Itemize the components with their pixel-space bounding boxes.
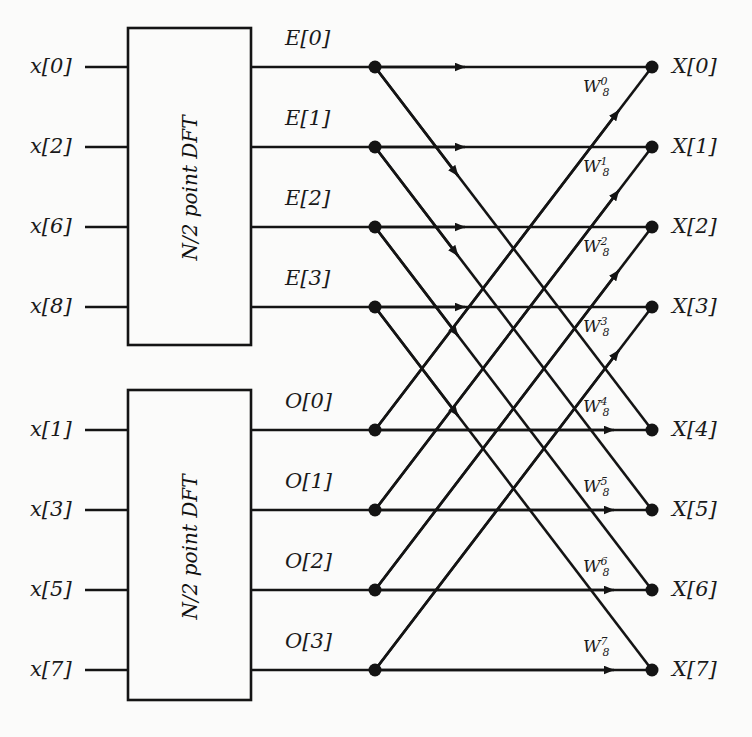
twiddle-label-2: W28: [583, 236, 609, 258]
twiddle-base-7: W: [583, 636, 600, 656]
even-dft-block-label: N/2 point DFT: [178, 113, 202, 263]
twiddle-label-7: W78: [583, 636, 609, 658]
twiddle-base-5: W: [583, 476, 600, 496]
output-label-X4: X[4]: [672, 419, 717, 440]
even-output-label-0: E[0]: [285, 28, 330, 49]
odd-output-label-1: O[1]: [285, 471, 332, 492]
even-output-label-1: E[1]: [285, 108, 330, 129]
output-label-X2: X[2]: [672, 216, 717, 237]
twiddle-label-6: W68: [583, 556, 609, 578]
output-label-X5: X[5]: [672, 499, 717, 520]
twiddle-base-3: W: [583, 316, 600, 336]
twiddle-base-6: W: [583, 556, 600, 576]
twiddle-sub-1: 8: [602, 166, 609, 179]
odd-output-label-3: O[3]: [285, 631, 332, 652]
twiddle-base-2: W: [583, 236, 600, 256]
input-label-x8: x[8]: [30, 296, 72, 317]
twiddle-label-4: W48: [583, 396, 609, 418]
output-label-X3: X[3]: [672, 296, 717, 317]
twiddle-sub-7: 8: [602, 646, 609, 659]
twiddle-base-1: W: [583, 156, 600, 176]
twiddle-label-1: W18: [583, 156, 609, 178]
twiddle-base-4: W: [583, 396, 600, 416]
input-label-x3: x[3]: [30, 499, 72, 520]
twiddle-sub-2: 8: [602, 246, 609, 259]
twiddle-sub-0: 8: [602, 86, 609, 99]
odd-dft-block-label: N/2 point DFT: [178, 472, 202, 622]
twiddle-sub-5: 8: [602, 486, 609, 499]
output-label-X6: X[6]: [672, 579, 717, 600]
input-label-x7: x[7]: [30, 659, 72, 680]
output-label-X1: X[1]: [672, 136, 717, 157]
input-label-x6: x[6]: [30, 216, 72, 237]
twiddle-label-5: W58: [583, 476, 609, 498]
odd-output-label-0: O[0]: [285, 391, 332, 412]
twiddle-sub-6: 8: [602, 566, 609, 579]
twiddle-label-0: W08: [583, 76, 609, 98]
diagram-canvas: [0, 0, 752, 737]
output-label-X7: X[7]: [672, 659, 717, 680]
even-output-label-2: E[2]: [285, 188, 330, 209]
input-label-x0: x[0]: [30, 56, 72, 77]
output-label-X0: X[0]: [672, 56, 717, 77]
fft-butterfly-figure: N/2 point DFT N/2 point DFT x[0] x[2] x[…: [0, 0, 752, 737]
input-label-x2: x[2]: [30, 136, 72, 157]
odd-output-label-2: O[2]: [285, 551, 332, 572]
input-label-x5: x[5]: [30, 579, 72, 600]
input-label-x1: x[1]: [30, 419, 72, 440]
even-output-label-3: E[3]: [285, 268, 330, 289]
twiddle-sub-4: 8: [602, 406, 609, 419]
twiddle-label-3: W38: [583, 316, 609, 338]
twiddle-base-0: W: [583, 76, 600, 96]
twiddle-sub-3: 8: [602, 326, 609, 339]
